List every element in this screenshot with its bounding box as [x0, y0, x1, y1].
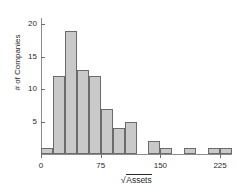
x-axis-tick	[160, 154, 161, 158]
histogram-chart: # of Companies 5 10 15 20 0 75 150 225 √…	[0, 0, 236, 195]
y-axis-tick-label: 10	[17, 85, 37, 93]
histogram-bar	[113, 128, 125, 154]
x-axis-tick-label: 150	[145, 161, 175, 170]
radical-sign-icon: √	[121, 175, 126, 185]
x-axis-tick	[41, 154, 42, 158]
histogram-bar	[53, 76, 65, 154]
histogram-bar	[148, 141, 160, 154]
x-axis-title: √Assets	[41, 175, 232, 185]
y-axis-tick-label: 5	[17, 118, 37, 126]
histogram-bar	[125, 122, 137, 154]
x-axis-tick	[101, 154, 102, 158]
histogram-bar	[77, 70, 89, 154]
x-axis-tick	[220, 154, 221, 158]
histogram-bar	[89, 76, 101, 154]
y-axis-tick-label: 20	[17, 20, 37, 28]
x-axis-tick-label: 0	[26, 161, 56, 170]
y-axis-tick-label: 15	[17, 53, 37, 61]
x-axis-line	[41, 154, 232, 155]
histogram-bar	[65, 31, 77, 154]
x-axis-tick-label: 225	[205, 161, 235, 170]
x-axis-tick-label: 75	[86, 161, 116, 170]
histogram-bar	[101, 109, 113, 154]
plot-area	[41, 18, 232, 154]
x-axis-title-radicand: Assets	[126, 174, 153, 185]
